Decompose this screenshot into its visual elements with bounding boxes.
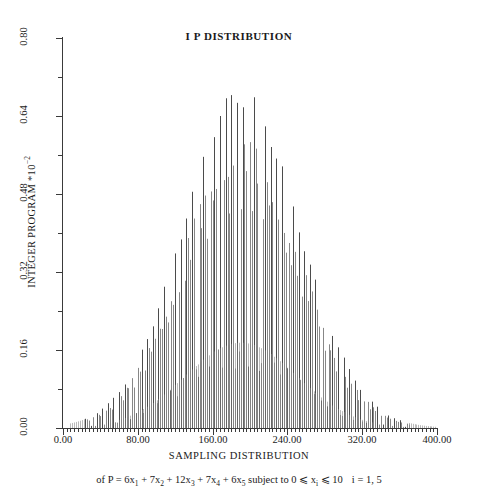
x-tick-minor [269, 429, 270, 432]
x-tick-minor [220, 429, 221, 432]
x-tick-minor [321, 429, 322, 432]
x-tick-minor [422, 429, 423, 432]
x-tick-minor [257, 429, 258, 432]
x-tick-minor [134, 429, 135, 432]
x-tick-minor [130, 429, 131, 432]
caption-part-2: + 7x [139, 474, 161, 485]
caption-part-6: subject to 0 ⩽ x [245, 474, 316, 485]
x-tick-minor [149, 429, 150, 432]
x-tick-minor [295, 429, 296, 432]
x-tick-minor [190, 429, 191, 432]
x-tick-minor [426, 429, 427, 432]
x-tick-minor [396, 429, 397, 432]
x-tick-minor [329, 429, 330, 432]
x-tick-minor [385, 429, 386, 432]
x-tick-minor [198, 429, 199, 432]
x-tick-minor [250, 429, 251, 432]
x-tick-minor [358, 429, 359, 432]
x-tick-minor [407, 429, 408, 432]
x-tick-minor [415, 429, 416, 432]
caption-part-3: + 12x [164, 474, 191, 485]
x-tick-minor [325, 429, 326, 432]
x-tick-minor [400, 429, 401, 432]
x-tick-minor [355, 429, 356, 432]
x-tick-minor [299, 429, 300, 432]
x-tick-minor [366, 429, 367, 432]
x-tick-minor [201, 429, 202, 432]
y-axis-title-text: INTEGER PROGRAM *10 [26, 164, 37, 288]
x-tick-minor [310, 429, 311, 432]
x-tick-minor [104, 429, 105, 432]
x-tick-minor [344, 429, 345, 432]
x-tick-label: 0.00 [33, 434, 93, 445]
y-tick-major [56, 38, 63, 39]
x-tick-minor [186, 429, 187, 432]
x-tick-minor [347, 429, 348, 432]
y-tick-major [56, 272, 63, 273]
x-tick-minor [164, 429, 165, 432]
x-tick-minor [370, 429, 371, 432]
x-tick-label: 320.00 [332, 434, 392, 445]
x-tick-minor [332, 429, 333, 432]
x-tick-minor [145, 429, 146, 432]
x-tick-minor [261, 429, 262, 432]
plot-area [63, 38, 437, 428]
y-axis-title-exponent: −2 [23, 156, 32, 165]
x-tick-minor [239, 429, 240, 432]
x-tick-minor [411, 429, 412, 432]
x-tick-minor [433, 429, 434, 432]
caption-part-1: of P = 6x [96, 474, 135, 485]
x-tick-minor [228, 429, 229, 432]
x-tick-minor [231, 429, 232, 432]
x-tick-minor [100, 429, 101, 432]
figure-caption: of P = 6x1 + 7x2 + 12x3 + 7x4 + 6x5 subj… [0, 473, 478, 488]
x-tick-minor [82, 429, 83, 432]
y-tick-major [56, 428, 63, 429]
x-tick-minor [265, 429, 266, 432]
x-tick-minor [112, 429, 113, 432]
x-tick-minor [216, 429, 217, 432]
x-tick-minor [336, 429, 337, 432]
x-tick-minor [340, 429, 341, 432]
x-tick-minor [272, 429, 273, 432]
x-tick-minor [160, 429, 161, 432]
x-tick-minor [224, 429, 225, 432]
x-tick-minor [284, 429, 285, 432]
x-tick-minor [115, 429, 116, 432]
x-tick-minor [418, 429, 419, 432]
y-tick-major [56, 350, 63, 351]
x-tick-minor [127, 429, 128, 432]
x-tick-minor [381, 429, 382, 432]
y-tick-label: 0.00 [18, 401, 29, 453]
x-tick-minor [85, 429, 86, 432]
x-tick-minor [254, 429, 255, 432]
x-tick-minor [194, 429, 195, 432]
x-tick-minor [377, 429, 378, 432]
x-tick-minor [291, 429, 292, 432]
x-tick-minor [97, 429, 98, 432]
caption-part-8: i = 1, 5 [352, 474, 382, 485]
x-axis-title: SAMPLING DISTRIBUTION [0, 450, 478, 461]
y-tick-label: 0.16 [18, 323, 29, 375]
y-tick-label: 0.80 [18, 11, 29, 63]
y-tick-major [56, 116, 63, 117]
x-tick-minor [123, 429, 124, 432]
x-tick-minor [205, 429, 206, 432]
x-tick-minor [157, 429, 158, 432]
x-tick-minor [74, 429, 75, 432]
x-tick-minor [246, 429, 247, 432]
x-tick-minor [351, 429, 352, 432]
x-tick-minor [171, 429, 172, 432]
x-tick-minor [403, 429, 404, 432]
x-tick-label: 80.00 [108, 434, 168, 445]
x-tick-minor [183, 429, 184, 432]
x-tick-minor [209, 429, 210, 432]
y-tick-major [56, 194, 63, 195]
x-tick-minor [306, 429, 307, 432]
x-tick-minor [388, 429, 389, 432]
x-tick-minor [108, 429, 109, 432]
caption-part-7: ⩽ 10 [318, 474, 343, 485]
x-tick-minor [373, 429, 374, 432]
x-tick-minor [89, 429, 90, 432]
caption-part-4: + 7x [195, 474, 217, 485]
